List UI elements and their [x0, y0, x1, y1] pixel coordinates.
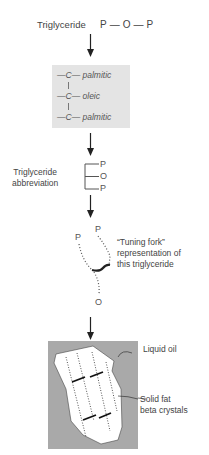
- formula-row-1: —C— palmitic: [57, 70, 111, 80]
- arrow-down-icon: [86, 195, 95, 219]
- abbr-letter-o: O: [100, 171, 107, 181]
- liquid-oil-label: Liquid oil: [143, 344, 177, 354]
- abbr-letter-p-bottom: P: [100, 183, 106, 193]
- abbr-letter-p-top: P: [100, 159, 106, 169]
- tuning-fork-icon: [70, 230, 120, 300]
- abbreviation-label: Triglyceride abbreviation: [12, 167, 58, 189]
- solid-fat-label: Solid fat beta crystals: [140, 394, 188, 416]
- pop-formula: P — O — P: [100, 20, 154, 30]
- bracket-icon: [82, 162, 102, 192]
- formula-row-2: —C— oleic: [57, 91, 100, 101]
- structural-formula-box: —C— palmitic —C— oleic —C— palmitic: [52, 65, 130, 128]
- arrow-down-icon: [86, 133, 95, 157]
- arrow-down-icon: [86, 317, 95, 341]
- bond-line: [68, 103, 69, 110]
- crystal-diagram: [48, 341, 138, 449]
- formula-row-3: —C— palmitic: [57, 112, 111, 122]
- arrow-down-icon: [86, 34, 95, 58]
- bond-line: [68, 82, 69, 89]
- triglyceride-label: Triglyceride: [37, 20, 86, 30]
- tuning-fork-label: “Tuning fork” representation of this tri…: [117, 237, 181, 270]
